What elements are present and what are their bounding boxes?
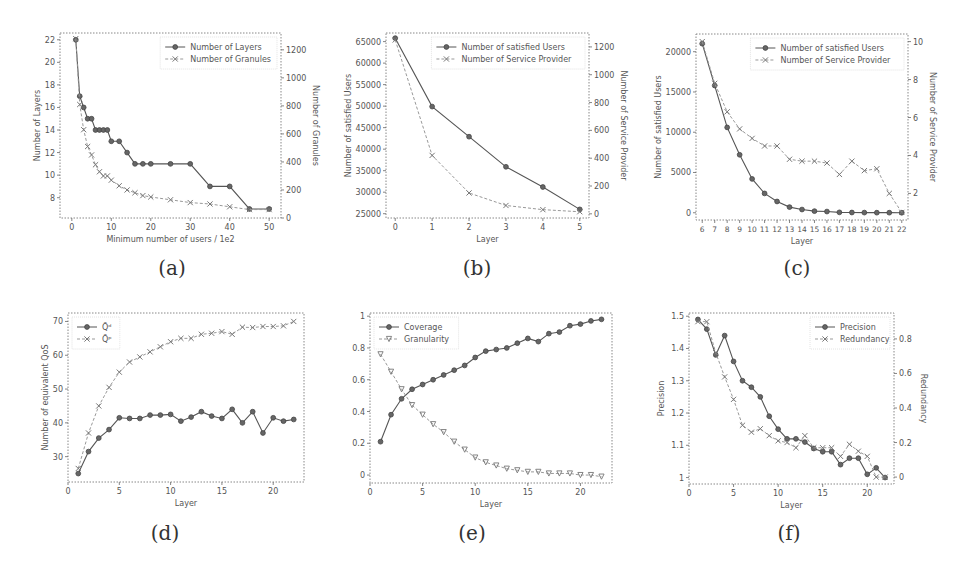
marker-circle [281,419,286,424]
marker-x [750,136,755,141]
y2-axis-label: Number of Service Provider [928,72,937,183]
marker-circle [737,152,742,157]
y-tick-label: 12 [45,149,55,158]
marker-circle [589,319,594,324]
figure-canvas: 0102030405081012141618202202004006008001… [0,0,964,576]
marker-circle [420,382,425,387]
marker-x [767,433,772,438]
y2-tick-label: 4 [913,151,918,160]
marker-circle [800,207,805,212]
x-tick-label: 10 [166,487,176,496]
marker-circle [76,471,81,476]
marker-x [86,430,91,435]
x-tick-label: 10 [470,488,480,497]
y-tick-label: 25000 [356,210,381,219]
legend-label: Q̃ᵈ [102,322,112,332]
y2-tick-label: 800 [286,102,301,111]
y-tick-label: 70 [53,317,63,326]
y2-tick-label: 6 [913,114,918,123]
x-tick-label: 20 [862,489,872,498]
marker-x [137,354,142,359]
x-tick-label: 15 [818,489,828,498]
x-tick-label: 9 [737,225,742,234]
marker-circle [536,339,541,344]
marker-x [887,191,892,196]
y-tick-label: 65000 [356,38,381,47]
marker-x [731,397,736,402]
y2-tick-label: 8 [913,76,918,85]
legend-label: Number of satisfied Users [461,43,565,52]
marker-circle [874,210,879,215]
marker-circle [220,416,225,421]
x-tick-label: 16 [822,225,832,234]
y-tick-label: 1.3 [671,377,684,386]
y-axis-label: Precision [657,381,666,417]
x-tick-label: 0 [686,489,691,498]
x-tick-label: 20 [268,487,278,496]
marker-circle [105,128,110,133]
marker-circle [137,416,142,421]
marker-x [849,159,854,164]
marker-circle [148,413,153,418]
marker-circle [467,134,472,139]
marker-circle [731,359,736,364]
marker-circle [849,210,854,215]
marker-circle [802,440,807,445]
marker-circle [525,336,530,341]
marker-x [725,109,730,114]
chart-b: 0123452500030000350004000045000500005500… [344,33,628,244]
marker-circle [117,415,122,420]
x-axis-label: Layer [780,501,803,510]
series-q- [76,407,296,476]
y-tick-label: 20 [45,58,55,67]
marker-circle [825,209,830,214]
legend-label: Granularity [404,335,449,344]
caption-b: (b) [463,256,491,280]
y-tick-label: 0.8 [352,344,365,353]
legend: Number of satisfied UsersNumber of Servi… [750,38,904,70]
marker-circle [722,333,727,338]
marker-circle [557,330,562,335]
marker-circle [767,414,772,419]
y2-tick-label: 200 [286,186,301,195]
y-tick-label: 30 [53,453,63,462]
y2-axis-label: Redundancy [919,374,928,424]
y-tick-label: 5000 [671,168,691,177]
x-tick-label: 0 [393,223,398,232]
marker-x [722,374,727,379]
x-tick-label: 5 [117,487,122,496]
y2-tick-label: 600 [286,130,301,139]
y2-tick-label: 2 [913,189,918,198]
marker-circle [158,413,163,418]
marker-circle [85,325,90,330]
marker-circle [740,378,745,383]
y2-tick-label: 0.2 [899,439,912,448]
legend-label: Coverage [404,323,442,332]
marker-x [93,162,98,167]
y-tick-label: 50000 [356,102,381,111]
x-tick-label: 7 [712,225,717,234]
marker-circle [227,184,232,189]
marker-circle [140,161,145,166]
marker-circle [452,368,457,373]
marker-x [838,454,843,459]
marker-x [132,190,137,195]
x-tick-label: 0 [367,488,372,497]
y-tick-label: 20000 [666,48,691,57]
marker-x [240,325,245,330]
marker-circle [865,472,870,477]
y2-tick-label: 0 [899,473,904,482]
marker-circle [823,325,828,330]
y-tick-label: 0 [360,471,365,480]
y-axis-label: Number of equivalent QoS [41,344,50,450]
marker-circle [250,409,255,414]
x-tick-label: 0 [69,223,74,232]
marker-x [749,430,754,435]
marker-circle [758,394,763,399]
marker-circle [540,185,545,190]
y-tick-label: 1.1 [671,441,684,450]
y-tick-label: 30000 [356,188,381,197]
marker-x [158,344,163,349]
marker-x [787,157,792,162]
marker-triangle [494,463,499,468]
